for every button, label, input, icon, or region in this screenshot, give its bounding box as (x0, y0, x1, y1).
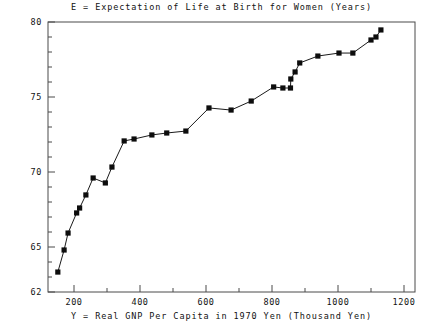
data-point-marker (336, 50, 341, 55)
data-point-marker (228, 107, 233, 112)
x-axis-tick-label: 200 (65, 297, 82, 307)
series-line (58, 30, 381, 272)
data-point-marker (65, 230, 70, 235)
plot-frame (48, 22, 415, 292)
y-axis-tick-label: 65 (31, 242, 42, 252)
data-point-marker (297, 60, 302, 65)
data-point-marker (109, 164, 114, 169)
data-point-marker (62, 247, 67, 252)
y-axis-tick-label: 80 (31, 17, 42, 27)
data-point-marker (280, 85, 285, 90)
data-point-marker (368, 37, 373, 42)
data-point-marker (271, 84, 276, 89)
data-point-marker (249, 98, 254, 103)
data-point-marker (83, 192, 88, 197)
data-point-marker (206, 105, 211, 110)
x-axis-tick-label: 800 (263, 297, 280, 307)
data-point-marker (378, 27, 383, 32)
data-point-marker (55, 269, 60, 274)
x-axis-label: Y = Real GNP Per Capita in 1970 Yen (Tho… (0, 311, 443, 321)
x-axis-tick-label: 1000 (327, 297, 350, 307)
y-axis-tick-label: 70 (31, 167, 42, 177)
data-point-marker (288, 85, 293, 90)
data-point-marker (350, 50, 355, 55)
x-axis-tick-label: 400 (131, 297, 148, 307)
y-axis-tick-label: 75 (31, 92, 42, 102)
data-point-marker (373, 34, 378, 39)
data-point-marker (122, 138, 127, 143)
data-point-marker (103, 180, 108, 185)
data-point-marker (315, 53, 320, 58)
data-point-marker (91, 175, 96, 180)
y-axis-tick-label: 62 (31, 287, 42, 297)
x-axis-tick-label: 1200 (393, 297, 416, 307)
chart-container: E = Expectation of Life at Birth for Wom… (0, 0, 443, 330)
x-axis-tick-label: 600 (197, 297, 214, 307)
data-point-marker (149, 132, 154, 137)
data-point-marker (183, 128, 188, 133)
data-point-marker (131, 136, 136, 141)
data-point-marker (293, 69, 298, 74)
data-point-marker (288, 76, 293, 81)
data-point-marker (77, 205, 82, 210)
chart-plot-area: 657075806220040060080010001200 (0, 0, 443, 330)
data-point-marker (164, 130, 169, 135)
data-point-marker (74, 210, 79, 215)
